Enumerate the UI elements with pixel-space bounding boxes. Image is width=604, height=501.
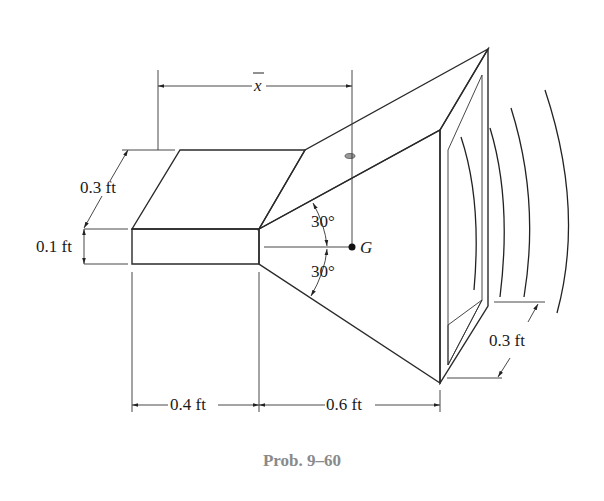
sound-wave-1 [490, 128, 504, 297]
horn-side-face [259, 130, 440, 383]
horn-mouth-rim [440, 49, 488, 383]
speaker-horn-diagram: x 0.3 ft 0.1 ft 30° 30° G 0.4 ft 0.6 ft [0, 0, 604, 501]
sound-waves [490, 90, 569, 313]
sound-wave-2 [511, 108, 530, 297]
throat-top-face [132, 150, 305, 229]
throat-depth-label: 0.3 ft [80, 178, 116, 197]
mouth-depth-label: 0.3 ft [489, 331, 525, 350]
throat-length-label: 0.4 ft [170, 395, 206, 414]
horn-top-face [259, 49, 488, 229]
lower-angle-label: 30° [311, 262, 335, 281]
sound-wave-3 [545, 90, 569, 313]
length-dimensions: 0.4 ft 0.6 ft [132, 272, 440, 414]
centroid-label: G [360, 238, 372, 257]
horn-length-label: 0.6 ft [326, 395, 362, 414]
top-marker [345, 154, 355, 159]
throat-depth-dimension: 0.3 ft [80, 150, 175, 229]
upper-angle-label: 30° [311, 212, 335, 231]
horn-body [259, 49, 488, 383]
throat-height-dimension: 0.1 ft [36, 229, 128, 264]
speaker-cone-arc [461, 137, 476, 290]
horn-mouth-floor [448, 300, 482, 365]
xbar-label: x [253, 76, 262, 95]
throat-front-face [132, 229, 259, 264]
figure-caption: Prob. 9–60 [263, 451, 341, 470]
centroid-point [349, 244, 356, 251]
throat-height-label: 0.1 ft [36, 237, 72, 256]
mouth-depth-dimension: 0.3 ft [447, 302, 545, 378]
